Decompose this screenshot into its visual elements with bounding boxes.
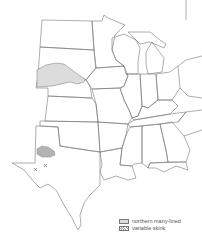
map-legend: northern many-lined variable skink: [119, 218, 181, 232]
x-marker-icon: [44, 164, 47, 167]
state-outline-map: [0, 0, 202, 249]
state-tennessee: [128, 112, 186, 127]
solid-swatch-icon: [119, 219, 129, 224]
state-alabama: [142, 124, 168, 168]
state-arkansas: [98, 122, 128, 152]
state-ohio: [156, 66, 180, 100]
x-marker-icon: [34, 168, 37, 171]
state-texas: [12, 126, 100, 230]
range-northern-many-lined: [37, 63, 85, 87]
state-mississippi: [120, 126, 142, 166]
state-illinois: [120, 74, 142, 118]
legend-item: variable skink: [119, 225, 181, 232]
variable-skink-occurrence-markers: [34, 164, 47, 171]
range-variable-skink: [37, 146, 55, 157]
legend-label: northern many-lined: [132, 218, 181, 225]
state-michigan: [128, 32, 166, 74]
range-map: northern many-lined variable skink: [0, 0, 202, 249]
state-louisiana: [100, 148, 136, 180]
state-kentucky: [132, 100, 178, 120]
state-eastern-borders: [178, 0, 202, 98]
state-missouri: [92, 88, 132, 124]
state-minnesota: [92, 15, 125, 68]
state-florida: [148, 162, 188, 172]
legend-label: variable skink: [132, 225, 165, 232]
state-carolinas: [178, 110, 202, 136]
state-georgia: [160, 122, 190, 162]
state-indiana: [140, 74, 158, 108]
legend-item: northern many-lined: [119, 218, 181, 225]
state-north-dakota: [40, 20, 94, 50]
state-kansas: [45, 96, 98, 122]
hatch-swatch-icon: [119, 226, 129, 231]
state-iowa: [86, 66, 128, 89]
